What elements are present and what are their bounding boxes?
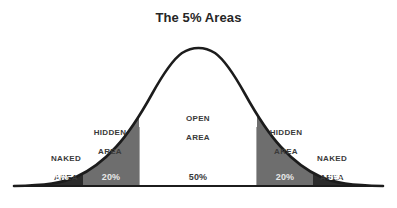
bell-curve-figure: The 5% Areas (0, 0, 397, 208)
value-hidden-area-right: 20% (267, 172, 303, 182)
label-hidden-area-right-line2: AREA (274, 147, 298, 156)
label-hidden-area-left-line1: HIDDEN (94, 128, 126, 137)
label-open-area-line2: AREA (186, 133, 210, 142)
label-naked-area-left-line1: NAKED (51, 154, 81, 163)
label-hidden-area-right-line1: HIDDEN (270, 128, 302, 137)
label-naked-area-right-line1: NAKED (317, 154, 347, 163)
value-naked-area-right: 5% (317, 172, 353, 182)
label-hidden-area-left-line2: AREA (98, 147, 122, 156)
label-open-area-line1: OPEN (186, 114, 210, 123)
value-naked-area-left: 5% (44, 172, 80, 182)
value-hidden-area-left: 20% (93, 172, 129, 182)
value-open-area: 50% (180, 172, 216, 182)
label-hidden-area-left: HIDDEN AREA (82, 118, 138, 156)
label-open-area: OPEN AREA (170, 104, 226, 142)
